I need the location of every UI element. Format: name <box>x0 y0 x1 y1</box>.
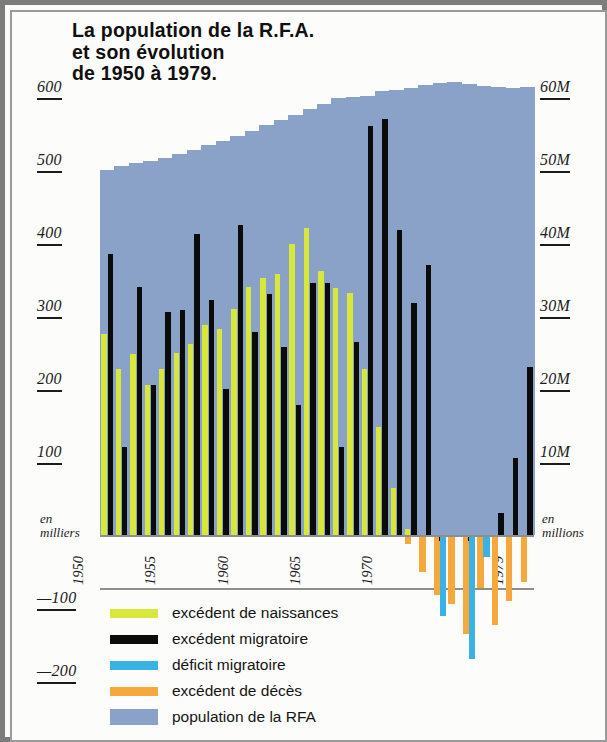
axis-tick: 40M <box>540 224 570 246</box>
bar-deaths-surplus <box>419 537 425 572</box>
axis-tick: 500 <box>37 151 62 173</box>
axis-tick-label: 40M <box>540 224 570 246</box>
axis-tick: 300 <box>37 297 62 319</box>
legend-item: population de la RFA <box>110 704 400 730</box>
legend-swatch <box>110 635 158 644</box>
poster-frame: La population de la R.F.A. et son évolut… <box>0 0 607 742</box>
bar-births-surplus <box>188 344 193 535</box>
bar-migration-deficit <box>469 537 475 659</box>
bar-births-surplus <box>362 369 367 535</box>
legend-item: excédent de naissances <box>110 600 400 626</box>
poster-inner: La population de la R.F.A. et son évolut… <box>10 10 607 742</box>
bar-migration-surplus <box>411 303 416 535</box>
axis-tick-label: —200 <box>37 662 76 684</box>
bar-births-surplus <box>275 274 280 535</box>
chart-plot-area <box>100 74 534 535</box>
legend-label: déficit migratoire <box>172 656 286 674</box>
axis-tick-label: 60M <box>540 78 570 100</box>
bar-migration-surplus <box>325 283 330 535</box>
bar-births-surplus <box>304 228 309 535</box>
axis-tick-label: 50M <box>540 151 570 173</box>
right-axis-unit-label: en millions <box>542 512 584 540</box>
axis-tick: 30M <box>540 297 570 319</box>
bar-births-surplus <box>376 427 381 535</box>
bar-migration-surplus <box>513 458 518 535</box>
bar-births-surplus <box>202 325 207 535</box>
axis-tick: —200 <box>37 662 76 684</box>
axis-tick-label: 100 <box>37 443 62 465</box>
bar-births-surplus <box>333 288 338 535</box>
title-line-2: et son évolution <box>72 42 372 64</box>
bar-migration-deficit <box>440 537 446 616</box>
legend-label: excédent migratoire <box>172 630 308 648</box>
bar-migration-surplus <box>382 119 387 535</box>
chart-legend: excédent de naissancesexcédent migratoir… <box>110 600 400 730</box>
bar-migration-surplus <box>397 230 402 535</box>
bar-births-surplus <box>391 488 396 535</box>
legend-swatch <box>110 661 158 670</box>
legend-item: déficit migratoire <box>110 652 400 678</box>
bar-migration-surplus <box>296 405 301 535</box>
bar-births-surplus <box>289 244 294 535</box>
bar-deaths-surplus <box>521 537 527 582</box>
bar-migration-surplus <box>223 389 228 535</box>
bar-births-surplus <box>217 329 222 535</box>
bar-migration-surplus <box>194 234 199 535</box>
axis-tick-label: 500 <box>37 151 62 173</box>
bar-migration-surplus <box>310 283 315 535</box>
bar-migration-surplus <box>354 342 359 535</box>
axis-tick-label: 600 <box>37 78 62 100</box>
bar-deaths-surplus <box>506 537 512 601</box>
bar-migration-surplus <box>108 254 113 535</box>
bar-migration-surplus <box>498 513 503 535</box>
legend-label: excédent de décès <box>172 682 302 700</box>
axis-tick: 400 <box>37 224 62 246</box>
bar-migration-surplus <box>527 367 532 535</box>
axis-tick: 50M <box>540 151 570 173</box>
axis-tick-label: —100 <box>37 589 76 611</box>
axis-tick-label: 300 <box>37 297 62 319</box>
bar-births-surplus <box>260 278 265 535</box>
bar-migration-surplus <box>339 447 344 535</box>
bar-births-surplus <box>145 385 150 535</box>
axis-tick: 200 <box>37 370 62 392</box>
axis-tick-label: 10M <box>540 443 570 465</box>
bar-migration-surplus <box>368 126 373 535</box>
legend-label: population de la RFA <box>172 708 316 726</box>
bar-births-surplus <box>174 353 179 536</box>
axis-tick: 60M <box>540 78 570 100</box>
bar-migration-surplus <box>122 447 127 535</box>
legend-item: excédent de décès <box>110 678 400 704</box>
bar-deaths-surplus <box>405 537 411 544</box>
bar-migration-surplus <box>137 287 142 535</box>
axis-tick: 600 <box>37 78 62 100</box>
axis-tick-label: 30M <box>540 297 570 319</box>
bar-migration-surplus <box>209 300 214 535</box>
bar-births-surplus <box>130 354 135 535</box>
legend-swatch <box>110 609 158 618</box>
bar-migration-surplus <box>180 310 185 535</box>
title-line-1: La population de la R.F.A. <box>72 20 372 42</box>
axis-tick-label: 20M <box>540 370 570 392</box>
bar-migration-surplus <box>238 225 243 535</box>
bar-migration-surplus <box>426 265 431 535</box>
bar-deaths-surplus <box>492 537 498 625</box>
axis-tick: 20M <box>540 370 570 392</box>
bar-migration-surplus <box>165 312 170 535</box>
bar-migration-surplus <box>267 294 272 535</box>
bar-migration-surplus <box>281 347 286 535</box>
bar-births-surplus <box>246 287 251 535</box>
bar-series-group <box>100 74 534 535</box>
legend-swatch <box>110 687 158 696</box>
bar-births-surplus <box>101 334 106 535</box>
bar-migration-deficit <box>483 537 489 557</box>
bar-deaths-surplus <box>448 537 454 604</box>
bar-migration-surplus <box>151 385 156 535</box>
legend-item: excédent migratoire <box>110 626 400 652</box>
legend-swatch <box>110 709 158 725</box>
axis-tick-label: 200 <box>37 370 62 392</box>
axis-tick: 100 <box>37 443 62 465</box>
legend-label: excédent de naissances <box>172 604 338 622</box>
bar-births-surplus <box>159 369 164 535</box>
bar-births-surplus <box>116 369 121 535</box>
